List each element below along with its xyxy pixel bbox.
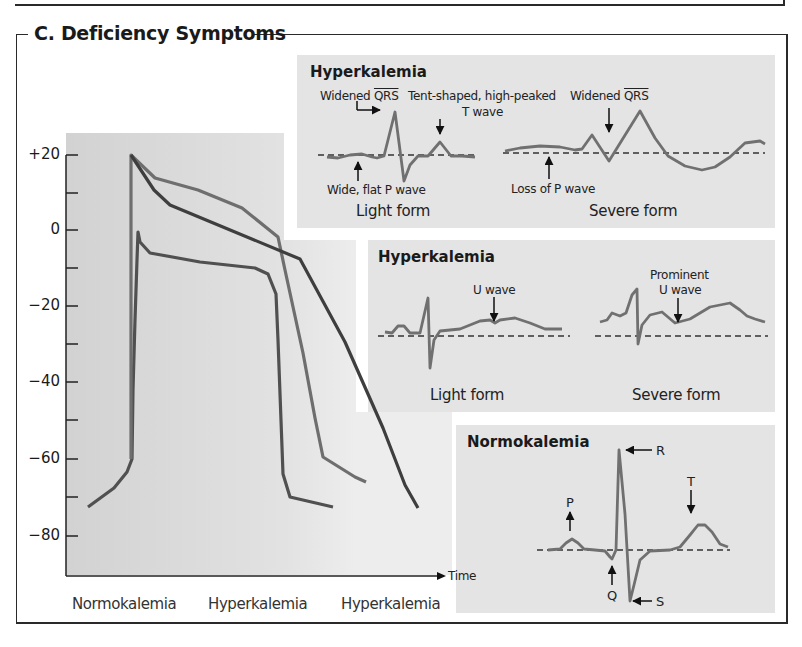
ap-curve-normokalemia xyxy=(88,232,333,507)
y-tick-label: −60 xyxy=(20,449,60,467)
annotation-severe-widened-qrs: Widened QRS xyxy=(570,89,648,103)
annotation-prominent-u-wave: U wave xyxy=(659,283,701,297)
y-tick-label: −40 xyxy=(20,372,60,390)
annotation-u-wave: U wave xyxy=(473,283,515,297)
legend-normokalemia: Normokalemia xyxy=(68,597,173,611)
diagram-graphics xyxy=(0,0,802,647)
annotation-widened-qrs: Widened QRS xyxy=(320,89,398,103)
panel-title: Normokalemia xyxy=(467,433,590,451)
annotation-t-wave: T wave xyxy=(462,105,503,119)
y-tick-label: +20 xyxy=(20,145,60,163)
y-axis xyxy=(66,155,78,576)
wave-label-r: R xyxy=(656,443,665,458)
legend-label: Hyperkalemia xyxy=(341,595,440,613)
wave-label-s: S xyxy=(656,594,664,609)
form-label-severe: Severe form xyxy=(632,386,720,404)
legend-label: Hyperkalemia xyxy=(208,595,307,613)
annotation-tent-shaped: Tent-shaped, high-peaked xyxy=(408,89,556,103)
y-tick-label: −20 xyxy=(20,296,60,314)
wave-label-q: Q xyxy=(607,588,617,603)
form-label-light: Light form xyxy=(356,202,430,220)
wave-label-p: P xyxy=(566,495,574,510)
ecg-trace-hyperk-severe xyxy=(505,111,765,170)
ecg-trace-hyperk-light xyxy=(327,112,475,181)
panel-title: Hyperkalemia xyxy=(378,248,495,266)
form-label-severe: Severe form xyxy=(589,202,677,220)
wave-label-t: T xyxy=(687,474,695,489)
legend-label: Normokalemia xyxy=(72,595,176,613)
legend-hyperkalemia-1: Hyperkalemia xyxy=(204,597,309,611)
annotation-prominent: Prominent xyxy=(650,268,709,282)
ecg-trace-hypo-light xyxy=(385,298,562,368)
legend-hyperkalemia-2: Hyperkalemia xyxy=(337,597,442,611)
ecg-trace-normo xyxy=(548,450,728,601)
x-axis-label: Time xyxy=(448,569,476,583)
y-tick-label: −80 xyxy=(20,526,60,544)
annotation-loss-of-p: Loss of P wave xyxy=(511,182,595,196)
x-axis xyxy=(66,572,446,580)
panel-title: Hyperkalemia xyxy=(310,63,427,81)
form-label-light: Light form xyxy=(430,386,504,404)
annotation-wide-flat-p: Wide, flat P wave xyxy=(327,183,426,197)
y-tick-label: 0 xyxy=(20,220,60,238)
